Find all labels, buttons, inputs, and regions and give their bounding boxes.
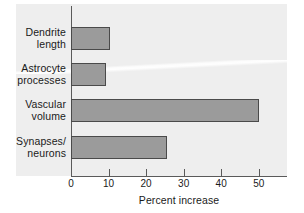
x-tick-20: [146, 169, 147, 176]
bar-synapses-neurons: [71, 136, 167, 159]
category-label-line-2: neurons: [0, 148, 66, 160]
x-tick-30: [184, 169, 185, 176]
bar-dendrite-length: [71, 27, 110, 50]
category-label-line-2: processes: [0, 75, 66, 87]
category-label-line-1: Vascular: [0, 99, 66, 111]
x-tick-label-50: 50: [239, 178, 279, 189]
category-label-vascular-volume: Vascular volume: [0, 99, 66, 122]
bar-vascular-volume: [71, 99, 259, 122]
category-label-line-2: length: [0, 39, 66, 51]
bar-chart-figure: Dendrite length Astrocyte processes Vasc…: [0, 0, 304, 213]
x-axis-title: Percent increase: [71, 194, 287, 206]
category-label-synapses-neurons: Synapses/ neurons: [0, 136, 66, 159]
x-tick-0: [71, 169, 72, 176]
x-tick-label-40: 40: [201, 178, 241, 189]
category-label-dendrite-length: Dendrite length: [0, 27, 66, 50]
category-label-line-1: Astrocyte: [0, 63, 66, 75]
x-tick-label-30: 30: [164, 178, 204, 189]
x-tick-40: [221, 169, 222, 176]
category-label-line-1: Synapses/: [0, 136, 66, 148]
bar-astrocyte-processes: [71, 63, 106, 86]
x-tick-50: [259, 169, 260, 176]
category-label-line-2: volume: [0, 111, 66, 123]
x-axis-line: [71, 176, 287, 177]
category-label-astrocyte-processes: Astrocyte processes: [0, 63, 66, 86]
category-label-line-1: Dendrite: [0, 27, 66, 39]
x-tick-label-0: 0: [51, 178, 91, 189]
x-tick-label-10: 10: [89, 178, 129, 189]
x-tick-10: [109, 169, 110, 176]
x-tick-label-20: 20: [126, 178, 166, 189]
